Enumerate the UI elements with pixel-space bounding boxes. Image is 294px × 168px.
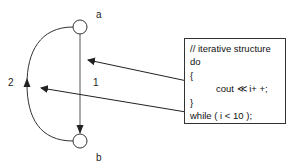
node-a xyxy=(73,20,87,34)
code-comment: // iterative structure xyxy=(190,42,285,55)
code-box: // iterative structure do { cout ≪ i+ +;… xyxy=(184,38,286,124)
node-b xyxy=(73,134,87,148)
code-while: while ( i < 10 ); xyxy=(190,109,285,122)
code-close-brace: } xyxy=(190,96,285,109)
code-do: do xyxy=(190,55,285,68)
node-b-label: b xyxy=(96,153,102,163)
pointer-arrow-condition xyxy=(41,88,186,112)
straight-arrowhead-icon xyxy=(77,125,84,134)
code-body: cout ≪ i+ +; xyxy=(190,82,285,95)
edge-2-label: 2 xyxy=(8,78,14,88)
loop-edge xyxy=(27,27,73,141)
code-open-brace: { xyxy=(190,69,285,82)
loop-arrowhead-icon xyxy=(24,78,31,87)
node-a-label: a xyxy=(96,10,102,20)
edge-1-label: 1 xyxy=(93,78,99,88)
